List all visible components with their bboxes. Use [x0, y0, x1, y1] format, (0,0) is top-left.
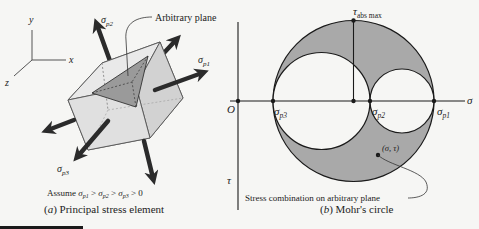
tau-axis-label: τ [227, 174, 232, 186]
arbitrary-plane-label: Arbitrary plane [155, 12, 217, 23]
sigma-p2-label: σp2 [101, 14, 113, 28]
diagram-canvas: y x z Arbitrary plane σp2 σp1 σp3 Assume… [0, 0, 479, 229]
z-axis-label: z [4, 77, 9, 88]
y-axis-label: y [28, 14, 34, 25]
arbitrary-point-label: (σ, τ) [382, 143, 399, 153]
sigma-p3-back-arrow [48, 120, 74, 130]
center-point [351, 99, 355, 103]
x-axis-label: x [68, 54, 74, 65]
section-bar [0, 226, 83, 229]
caption-a: (a) Principal stress element [44, 203, 164, 216]
sigma-p1-label: σp1 [198, 54, 210, 68]
sigma-p2-back-arrow [144, 141, 153, 178]
tau-abs-max-label: τabs max [353, 5, 382, 20]
sigma-p3-label: σp3 [57, 163, 69, 177]
caption-b: (b) Mohr's circle [320, 203, 394, 216]
sigma-axis-label: σ [467, 94, 473, 106]
coordinate-axes [14, 30, 66, 76]
assumption-text: Assume σp1 > σp2 > σp3 > 0 [47, 188, 143, 199]
tau-abs-max-point [351, 18, 355, 22]
sigma-p3-point [271, 99, 275, 103]
origin-point [236, 99, 240, 103]
sigma-p1-point [432, 99, 436, 103]
sigma-p1-point-label: σp1 [437, 105, 450, 120]
sigma-p2-point [368, 99, 372, 103]
origin-label: O [227, 103, 235, 115]
annotation-text: Stress combination on arbitrary plane [245, 193, 380, 203]
